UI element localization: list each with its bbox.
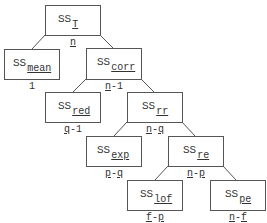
ss-subscript: rr [156, 106, 168, 117]
ss-symbol: SS [183, 144, 196, 156]
df-part-2: 1 [76, 124, 82, 135]
node-label: SSrr [142, 100, 168, 112]
node-label: SSmean [13, 57, 51, 69]
ss-decomposition-tree: SST n SSmean 1 SScorr n-1 SSred q-1 SSrr… [0, 0, 267, 223]
df-rr: n-q [125, 124, 185, 135]
node-ss-re: SSre [168, 136, 224, 167]
df-red: q-1 [43, 124, 103, 135]
df-value: n [70, 37, 76, 48]
node-label: SSpe [225, 188, 251, 200]
ss-subscript: exp [111, 150, 129, 161]
ss-symbol: SS [140, 188, 153, 200]
node-ss-rr: SSrr [127, 92, 183, 123]
ss-subscript: mean [27, 63, 51, 74]
node-ss-corr: SScorr [86, 48, 142, 80]
node-label: SSexp [97, 144, 129, 156]
ss-symbol: SS [97, 56, 110, 68]
node-ss-total: SST [45, 5, 101, 36]
df-pe: n-f [208, 212, 267, 223]
node-ss-exp: SSexp [86, 136, 142, 167]
df-part-2: q [158, 124, 164, 135]
df-part-2: p [158, 212, 164, 223]
df-lof: f-p [125, 212, 185, 223]
ss-subscript: lof [154, 194, 172, 205]
ss-symbol: SS [13, 57, 26, 69]
df-total: n [43, 37, 103, 48]
ss-subscript: re [197, 150, 209, 161]
df-part-2: p [199, 168, 205, 179]
node-ss-mean: SSmean [4, 49, 60, 80]
node-ss-pe: SSpe [210, 180, 266, 211]
ss-symbol: SS [58, 100, 71, 112]
node-label: SSre [183, 144, 209, 156]
df-part-2: 1 [117, 81, 123, 92]
ss-subscript: pe [239, 194, 251, 205]
ss-symbol: SS [225, 188, 238, 200]
ss-subscript: corr [111, 62, 135, 73]
df-corr: n-1 [84, 81, 144, 92]
node-label: SSlof [140, 188, 172, 200]
df-part-2: f [241, 212, 247, 223]
df-re: n-p [166, 168, 226, 179]
df-value: 1 [29, 81, 35, 92]
df-mean: 1 [2, 81, 62, 92]
ss-symbol: SS [97, 144, 110, 156]
df-part-2: q [117, 168, 123, 179]
df-exp: p-q [84, 168, 144, 179]
ss-symbol: SS [142, 100, 155, 112]
node-label: SScorr [97, 56, 135, 68]
ss-symbol: SS [58, 13, 71, 25]
node-label: SST [58, 13, 78, 25]
node-label: SSred [58, 100, 90, 112]
node-ss-red: SSred [45, 92, 101, 123]
node-ss-lof: SSlof [127, 180, 183, 211]
ss-subscript: red [72, 106, 90, 117]
ss-subscript: T [72, 19, 78, 30]
